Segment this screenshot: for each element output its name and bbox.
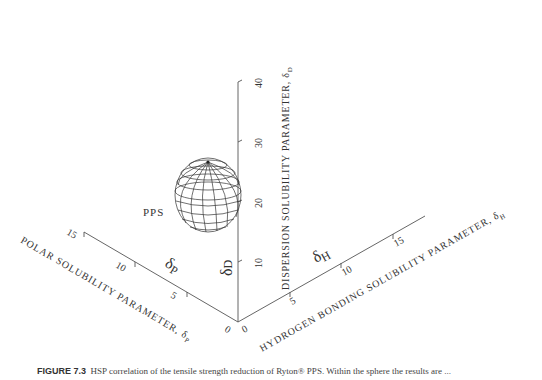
d-tick [238, 140, 242, 142]
d-axis-title: DISPERSION SOLUBILITY PARAMETER, δD [280, 66, 294, 290]
p-tick-label: 10 [114, 259, 128, 274]
p-tick-label: 15 [65, 226, 79, 241]
h-axis-title: HYDROGEN BONDING SOLUBILITY PARAMETER, δ… [258, 207, 508, 357]
d-tick-labels: 10 20 30 40 [253, 78, 264, 268]
h-tick-label: 15 [392, 234, 406, 248]
d-axis-end-hook [238, 80, 242, 82]
p-symbol: δP [161, 254, 184, 279]
sphere-label: PPS [143, 206, 164, 218]
caption-label: FIGURE 7.3 [37, 366, 86, 376]
pps-sphere [175, 158, 241, 232]
hsp-3d-chart: PPS 10 20 30 40 DISPERSION SOLUBILITY PA… [0, 0, 542, 380]
h-origin-label: 0 [240, 323, 250, 335]
h-symbol: δH [309, 243, 333, 269]
d-tick-label: 20 [253, 198, 264, 208]
p-origin-label: 0 [223, 323, 233, 335]
p-tick-label: 5 [169, 289, 179, 301]
p-axis-title: POLAR SOLUBILITY PARAMETER, δP [17, 234, 194, 345]
caption-text: HSP correlation of the tensile strength … [91, 366, 452, 376]
d-tick-label: 40 [253, 78, 264, 88]
p-axis-line [84, 232, 238, 322]
d-tick [238, 260, 242, 262]
d-tick-label: 30 [253, 138, 264, 148]
d-tick-label: 10 [253, 258, 264, 268]
h-tick-label: 10 [340, 263, 354, 277]
figure-caption: FIGURE 7.3 HSP correlation of the tensil… [37, 366, 542, 376]
d-symbol: δD [218, 259, 235, 276]
h-tick-label: 5 [288, 295, 298, 307]
